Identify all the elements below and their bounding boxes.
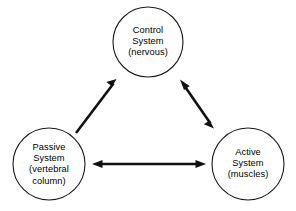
arrow-passive-active-head-right (196, 160, 207, 168)
arrow-control-active-shaft (184, 85, 211, 124)
arrow-control-active-head-upper (180, 80, 190, 91)
arrow-control-active-head-lower (204, 120, 214, 128)
control-system-circle[interactable] (113, 7, 183, 77)
arrow-passive-active-head-left (92, 160, 103, 168)
arrow-passive-to-control-head (106, 79, 116, 87)
arrow-passive-to-control (76, 79, 117, 133)
diagram-canvas: Control System (nervous) Passive System … (0, 0, 296, 211)
active-system-circle[interactable] (212, 128, 284, 200)
arrow-passive-active (92, 160, 206, 168)
arrow-passive-to-control-shaft (76, 84, 114, 134)
passive-system-circle[interactable] (13, 128, 85, 200)
diagram-graphics (0, 0, 296, 211)
arrow-control-active (180, 80, 214, 129)
